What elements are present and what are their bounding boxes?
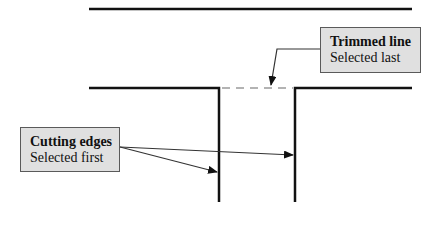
callout-trimmed-line: Trimmed line Selected last: [320, 27, 421, 73]
callout-title: Cutting edges: [30, 134, 119, 150]
callout-subtitle: Selected last: [330, 50, 420, 66]
trimmed-line-leader: [271, 49, 320, 85]
cutting-edge-right: [295, 88, 412, 202]
callout-cutting-edges: Cutting edges Selected first: [20, 127, 120, 172]
callout-title: Trimmed line: [330, 34, 420, 50]
callout-subtitle: Selected first: [30, 150, 119, 166]
